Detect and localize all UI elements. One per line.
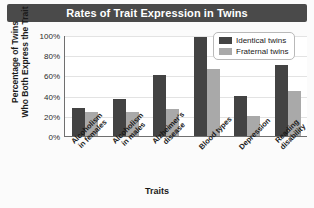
chart-title-bar: Rates of Trait Expression in Twins	[7, 4, 307, 22]
y-axis-tick-label: 0%	[24, 133, 60, 142]
legend-item: Identical twins	[219, 36, 288, 45]
legend-item: Fraternal twins	[219, 47, 288, 56]
x-axis-title: Traits	[0, 186, 314, 196]
y-axis-title-line2: Who Both Express the Trait	[21, 7, 31, 118]
y-axis-title: Percentage of Twins Who Both Express the…	[0, 2, 42, 122]
legend-swatch-identical	[219, 37, 232, 44]
chart-figure: Rates of Trait Expression in Twins Perce…	[0, 0, 314, 208]
page-title: Rates of Trait Expression in Twins	[66, 7, 248, 19]
legend-label: Identical twins	[236, 36, 286, 45]
chart-legend: Identical twinsFraternal twins	[213, 32, 295, 60]
legend-label: Fraternal twins	[236, 47, 288, 56]
legend-swatch-fraternal	[219, 48, 232, 55]
